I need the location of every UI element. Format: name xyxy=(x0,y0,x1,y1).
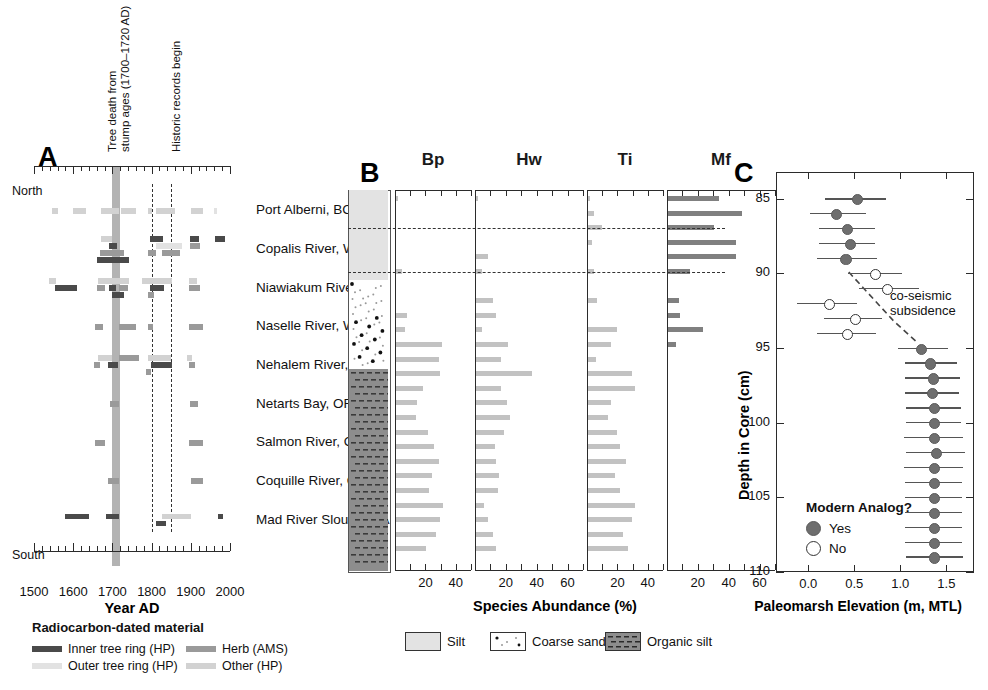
column-tick-top xyxy=(648,190,649,196)
abundance-bar xyxy=(588,473,615,478)
abundance-bar xyxy=(396,444,434,449)
axis-tick xyxy=(42,546,43,551)
panel-a-site-row xyxy=(34,424,230,463)
axis-tick xyxy=(175,546,176,551)
axis-tick xyxy=(183,166,184,171)
axis-tick xyxy=(42,166,43,171)
axis-tick xyxy=(120,546,121,551)
data-point-yes xyxy=(929,508,940,519)
organic-silt-pattern xyxy=(349,369,388,571)
core-unit-coarse-sand xyxy=(349,280,388,370)
panel-a-xtick: 1500 xyxy=(16,584,52,599)
axis-tick xyxy=(105,166,106,171)
date-range-bar xyxy=(189,440,202,446)
date-range-bar xyxy=(108,478,118,484)
date-range-bar xyxy=(162,250,180,256)
taxon-header-Hw: Hw xyxy=(475,150,583,170)
axis-tick xyxy=(97,166,98,171)
date-range-bar xyxy=(214,208,217,214)
date-range-bar xyxy=(49,278,56,284)
axis-tick xyxy=(89,546,90,551)
axis-tick xyxy=(112,166,113,174)
annotation-historic-text: Historic records begin xyxy=(170,41,182,152)
date-range-bar xyxy=(150,285,164,291)
date-range-bar xyxy=(121,208,136,214)
panel-a-site-row xyxy=(34,192,230,231)
panel-b-column-headers: BpHwTiMf xyxy=(395,150,721,176)
panel-c-legend-item: No xyxy=(806,541,926,556)
axis-tick xyxy=(175,166,176,171)
abundance-bar xyxy=(476,473,499,478)
column-tick-top xyxy=(568,190,569,196)
legend-marker-no xyxy=(806,541,821,556)
abundance-bar xyxy=(476,342,508,347)
abundance-bar xyxy=(476,430,504,435)
axis-tick xyxy=(120,166,121,171)
core-unit-organic-silt xyxy=(349,369,388,571)
abundance-bar xyxy=(476,313,496,318)
abundance-bar xyxy=(396,415,416,420)
panel-a-site-row xyxy=(34,463,230,502)
date-range-bar xyxy=(189,278,197,284)
legend-label: Other (HP) xyxy=(222,659,282,673)
abundance-bar xyxy=(396,532,436,537)
date-range-bar xyxy=(156,243,182,249)
abundance-bar xyxy=(588,298,597,303)
abundance-bar xyxy=(668,342,676,347)
date-range-bar xyxy=(119,355,139,361)
abundance-bar xyxy=(476,444,495,449)
taxon-column-Ti xyxy=(587,190,663,571)
legend-color-swatch xyxy=(186,663,216,669)
abundance-bar xyxy=(476,400,507,405)
axis-tick xyxy=(199,546,200,551)
panel-c-xtick: 0.0 xyxy=(790,576,826,591)
axis-tick xyxy=(50,166,51,171)
date-range-bar xyxy=(151,362,172,368)
abundance-bar xyxy=(668,240,736,245)
panel-a-site-row xyxy=(34,269,230,308)
abundance-bar xyxy=(476,488,498,493)
date-range-bar xyxy=(162,514,191,520)
data-point-yes xyxy=(931,448,942,459)
axis-tick xyxy=(167,166,168,171)
column-tick-top xyxy=(456,190,457,196)
axis-tick xyxy=(214,166,215,171)
panel-a-site-row xyxy=(34,231,230,270)
panel-c-ytick-mark xyxy=(776,572,784,573)
legend-label: Yes xyxy=(829,521,851,536)
axis-tick xyxy=(206,546,207,551)
annotation-tree-line2: stump ages (1700–1720 AD) xyxy=(119,6,131,152)
data-point-yes xyxy=(929,552,940,563)
panel-b-legend-item: Coarse sand xyxy=(490,632,606,651)
date-range-bar xyxy=(73,208,86,214)
column-tick-top xyxy=(617,190,618,196)
panel-b-dashed-line-1 xyxy=(348,272,725,273)
panel-b-xtick: 20 xyxy=(411,575,439,590)
abundance-bar xyxy=(588,240,592,245)
axis-tick xyxy=(105,546,106,551)
panel-a-legend-item: Herb (AMS) xyxy=(186,639,288,657)
abundance-bar xyxy=(668,298,679,303)
column-left-axis xyxy=(475,190,476,571)
abundance-bar xyxy=(396,196,398,201)
date-range-bar xyxy=(109,285,115,291)
abundance-bar xyxy=(396,503,443,508)
column-tick-bottom xyxy=(521,564,522,570)
panel-c-annotation-line-1: co-seismic xyxy=(890,288,980,303)
axis-line xyxy=(34,166,230,167)
data-point-yes xyxy=(916,344,927,355)
axis-tick xyxy=(159,166,160,171)
axis-tick xyxy=(222,166,223,171)
date-range-bar xyxy=(215,236,225,242)
date-range-bar xyxy=(156,521,166,527)
legend-marker-yes xyxy=(806,521,821,536)
date-range-bar xyxy=(98,355,112,361)
abundance-bar xyxy=(476,532,493,537)
legend-label: Inner tree ring (HP) xyxy=(68,642,175,656)
panel-a-legend: Radiocarbon-dated material Inner tree ri… xyxy=(14,620,334,673)
date-range-bar xyxy=(189,362,195,368)
taxon-header-Ti: Ti xyxy=(587,150,663,170)
panel-b-xtick: 40 xyxy=(634,575,662,590)
date-range-bar xyxy=(190,243,200,249)
panel-c-xaxis-title: Paleomarsh Elevation (m, MTL) xyxy=(730,598,986,614)
